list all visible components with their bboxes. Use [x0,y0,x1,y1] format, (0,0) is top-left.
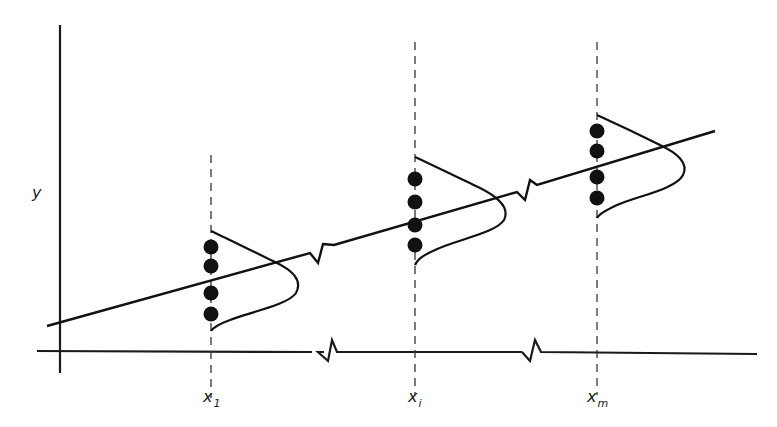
x-axis [37,340,757,361]
data-point [408,172,423,187]
data-point [590,170,605,185]
distribution-curve-x1 [211,231,298,331]
distribution-curve-xi [415,157,506,265]
data-point [204,307,219,322]
x-tick-label-x1: x1 [202,387,220,410]
data-point [408,238,423,253]
distribution-curve-xm [597,115,685,218]
data-point [590,124,605,139]
x-tick-label-xm: xm [586,387,608,410]
regression-diagram: y x1 xi xm [0,0,777,427]
data-point [408,195,423,210]
data-point [204,240,219,255]
x-tick-label-xi: xi [407,387,422,410]
regression-line [47,131,715,326]
data-point [590,191,605,206]
data-point [590,144,605,159]
data-point [204,259,219,274]
data-point [408,218,423,233]
data-point [204,286,219,301]
y-axis-label: y [31,183,42,202]
